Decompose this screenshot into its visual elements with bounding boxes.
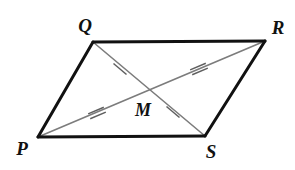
diagonal-qs: [93, 42, 205, 136]
side-qr: [93, 41, 265, 42]
vertex-label-r: R: [272, 18, 285, 37]
side-sp: [38, 136, 205, 137]
geometry-canvas: [0, 0, 295, 170]
diagonal-pr: [38, 41, 265, 137]
point-label-m: M: [135, 101, 151, 119]
vertex-label-s: S: [206, 142, 217, 161]
diagonals-group: [38, 41, 265, 137]
side-pq: [38, 42, 93, 137]
side-rs: [205, 41, 265, 136]
vertex-label-p: P: [16, 139, 28, 158]
geometry-figure: QRSPM: [0, 0, 295, 170]
vertex-label-q: Q: [78, 16, 92, 35]
